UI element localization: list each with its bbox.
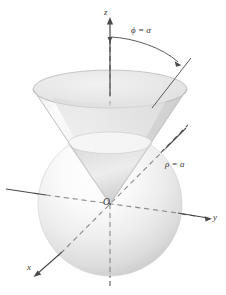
origin-label: O <box>103 198 110 208</box>
z-axis-arrowhead <box>107 17 113 25</box>
y-axis-arrowhead <box>205 216 212 221</box>
phi-angle-arc <box>111 37 178 62</box>
y-axis-label: y <box>213 213 217 222</box>
z-axis-label: z <box>104 8 108 17</box>
x-axis-label: x <box>27 263 31 272</box>
figure-canvas <box>0 0 226 295</box>
sphere-equation-label: ρ = a <box>165 160 184 169</box>
y-axis-solid <box>178 213 208 218</box>
spherical-coordinates-figure: z y x O ϕ = α ρ = a <box>0 0 226 295</box>
x-axis-negative-solid <box>166 128 186 148</box>
phi-arc-arrowhead <box>175 61 182 66</box>
cone-equation-label: ϕ = α <box>131 26 151 35</box>
x-axis-solid <box>37 252 62 274</box>
